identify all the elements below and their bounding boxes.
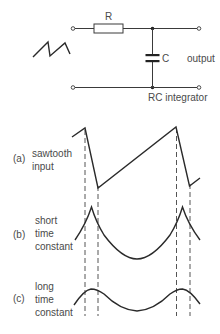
rc-circuit: R C output RC integrator (33, 11, 215, 103)
waveform-a: (a) sawtooth input (13, 127, 200, 188)
waveform-b: (b) short time constant (13, 207, 200, 259)
capacitor-label: C (162, 53, 169, 64)
short-time-constant-trace (75, 207, 200, 259)
output-label: output (187, 53, 215, 64)
output-terminal-bottom (197, 86, 201, 90)
waveform-b-tag: (b) (13, 229, 25, 240)
waveform-a-tag: (a) (13, 153, 25, 164)
waveform-b-line-3: constant (35, 241, 73, 252)
input-terminal-bottom (71, 86, 75, 90)
waveform-c-line-2: time (35, 294, 54, 305)
waveform-a-line-2: input (32, 161, 54, 172)
waveform-a-line-1: sawtooth (32, 148, 72, 159)
sawtooth-input-trace (72, 127, 200, 188)
capacitor-plate-bottom (146, 60, 160, 62)
rc-integrator-diagram: R C output RC integrator (a) sawtooth in (0, 0, 220, 334)
capacitor-plate-top (146, 54, 160, 56)
waveform-c: (c) long time constant (13, 281, 200, 318)
output-terminal-top (197, 27, 201, 31)
waveform-c-line-1: long (35, 281, 54, 292)
sawtooth-wave-icon (33, 42, 70, 57)
waveform-b-line-1: short (35, 215, 57, 226)
resistor-label: R (105, 11, 112, 22)
circuit-caption: RC integrator (148, 92, 208, 103)
waveform-c-tag: (c) (13, 293, 25, 304)
waveform-c-line-3: constant (35, 307, 73, 318)
input-terminal-top (71, 27, 75, 31)
long-time-constant-trace (74, 289, 200, 311)
timing-guides (85, 128, 190, 316)
waveform-b-line-2: time (35, 228, 54, 239)
resistor-symbol (94, 24, 123, 33)
